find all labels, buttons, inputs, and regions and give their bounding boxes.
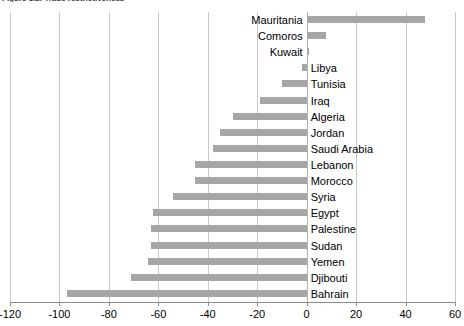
- bar-row: Morocco: [10, 173, 455, 189]
- bar-comoros: [307, 32, 327, 39]
- category-label-iraq: Iraq: [311, 93, 330, 109]
- category-label-mauritania: Mauritania: [251, 12, 302, 28]
- bar-row: Yemen: [10, 254, 455, 270]
- bar-row: Mauritania: [10, 12, 455, 28]
- category-label-lebanon: Lebanon: [311, 157, 354, 173]
- bar-row: Lebanon: [10, 157, 455, 173]
- tick-label-0: 0: [287, 307, 327, 321]
- chart-title: Figure 3.2. Trade restrictiveness: [2, 0, 124, 2]
- bar-row: Palestine: [10, 221, 455, 237]
- bar-row: Comoros: [10, 28, 455, 44]
- category-label-sudan: Sudan: [311, 238, 343, 254]
- tick-label--60: -60: [138, 307, 178, 321]
- bar-row: Egypt: [10, 205, 455, 221]
- category-label-libya: Libya: [311, 60, 337, 76]
- category-label-comoros: Comoros: [258, 28, 303, 44]
- bar-bahrain: [67, 290, 307, 297]
- bar-algeria: [233, 113, 307, 120]
- tick-label-20: 20: [336, 307, 376, 321]
- bar-row: Kuwait: [10, 44, 455, 60]
- category-label-yemen: Yemen: [311, 254, 345, 270]
- tick-mark--100: [59, 302, 60, 306]
- tick-mark--20: [257, 302, 258, 306]
- tick-mark--60: [158, 302, 159, 306]
- plot-area: MauritaniaComorosKuwaitLibyaTunisiaIraqA…: [10, 12, 455, 302]
- tick-label--40: -40: [188, 307, 228, 321]
- tick-mark--40: [208, 302, 209, 306]
- tick-label--120: -120: [0, 307, 30, 321]
- bar-row: Tunisia: [10, 76, 455, 92]
- bar-row: Saudi Arabia: [10, 141, 455, 157]
- tick-mark-0: [307, 302, 308, 306]
- bar-row: Syria: [10, 189, 455, 205]
- tick-label-60: 60: [435, 307, 464, 321]
- bar-sudan: [151, 242, 307, 249]
- category-label-djibouti: Djibouti: [311, 270, 348, 286]
- bar-row: Libya: [10, 60, 455, 76]
- tick-label--20: -20: [237, 307, 277, 321]
- tick-label-40: 40: [386, 307, 426, 321]
- category-label-saudi-arabia: Saudi Arabia: [311, 141, 373, 157]
- bar-mauritania: [307, 16, 426, 23]
- bar-jordan: [220, 129, 307, 136]
- category-label-algeria: Algeria: [311, 109, 345, 125]
- category-label-morocco: Morocco: [311, 173, 353, 189]
- bar-row: Iraq: [10, 93, 455, 109]
- bar-chart: Figure 3.2. Trade restrictiveness Maurit…: [0, 0, 464, 326]
- bar-row: Sudan: [10, 238, 455, 254]
- bar-egypt: [153, 209, 306, 216]
- category-label-bahrain: Bahrain: [311, 286, 349, 302]
- bar-row: Djibouti: [10, 270, 455, 286]
- gridline-60: [455, 12, 456, 302]
- bar-row: Jordan: [10, 125, 455, 141]
- bar-libya: [302, 64, 307, 71]
- category-label-tunisia: Tunisia: [311, 76, 346, 92]
- bar-row: Algeria: [10, 109, 455, 125]
- bar-palestine: [151, 225, 307, 232]
- bar-yemen: [148, 258, 306, 265]
- bar-tunisia: [282, 80, 307, 87]
- bar-iraq: [260, 97, 307, 104]
- category-label-syria: Syria: [311, 189, 336, 205]
- tick-label--80: -80: [89, 307, 129, 321]
- tick-mark--120: [10, 302, 11, 306]
- tick-mark-60: [455, 302, 456, 306]
- bar-saudi-arabia: [213, 145, 307, 152]
- category-label-palestine: Palestine: [311, 221, 356, 237]
- category-label-kuwait: Kuwait: [270, 44, 303, 60]
- bar-row: Bahrain: [10, 286, 455, 302]
- bar-syria: [173, 193, 307, 200]
- x-axis-line: [10, 302, 456, 303]
- tick-mark--80: [109, 302, 110, 306]
- tick-label--100: -100: [39, 307, 79, 321]
- category-label-jordan: Jordan: [311, 125, 345, 141]
- bar-morocco: [195, 177, 306, 184]
- bar-kuwait: [307, 48, 309, 55]
- category-label-egypt: Egypt: [311, 205, 339, 221]
- tick-mark-40: [406, 302, 407, 306]
- bar-djibouti: [131, 274, 307, 281]
- bar-lebanon: [195, 161, 306, 168]
- tick-mark-20: [356, 302, 357, 306]
